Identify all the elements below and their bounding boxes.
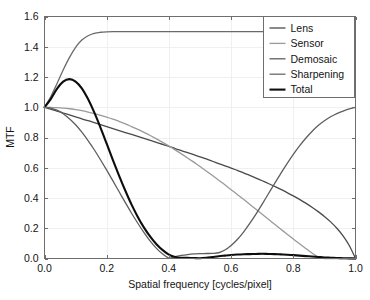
mtf-chart-figure: 0.00.20.40.60.81.0 0.00.20.40.60.81.01.2… — [0, 0, 370, 300]
y-tick-label: 0.4 — [24, 192, 39, 204]
x-axis-title: Spatial frequency [cycles/pixel] — [128, 278, 272, 290]
y-tick-label: 1.2 — [24, 71, 39, 83]
legend-label-lens: Lens — [291, 22, 314, 34]
x-tick-label: 0.4 — [162, 262, 177, 274]
x-tick-label: 0.8 — [286, 262, 301, 274]
legend: LensSensorDemosaicSharpeningTotal — [264, 17, 355, 98]
y-tick-label: 1.4 — [24, 41, 39, 53]
legend-label-sensor: Sensor — [291, 37, 325, 49]
legend-label-sharpening: Sharpening — [291, 68, 345, 80]
legend-label-demosaic: Demosaic — [291, 53, 338, 65]
y-tick-label: 0.8 — [24, 131, 39, 143]
x-tick-label: 0.2 — [99, 262, 114, 274]
chart-canvas: 0.00.20.40.60.81.0 0.00.20.40.60.81.01.2… — [0, 0, 370, 300]
x-tick-label: 1.0 — [348, 262, 363, 274]
y-tick-labels: 0.00.20.40.60.81.01.21.41.6 — [24, 10, 39, 264]
y-tick-label: 1.0 — [24, 101, 39, 113]
y-axis-title: MTF — [4, 126, 16, 148]
x-tick-label: 0.0 — [37, 262, 52, 274]
y-tick-label: 0.2 — [24, 222, 39, 234]
x-tick-label: 0.6 — [224, 262, 239, 274]
y-tick-label: 1.6 — [24, 10, 39, 22]
y-tick-label: 0.6 — [24, 162, 39, 174]
y-tick-label: 0.0 — [24, 252, 39, 264]
legend-label-total: Total — [291, 83, 313, 95]
